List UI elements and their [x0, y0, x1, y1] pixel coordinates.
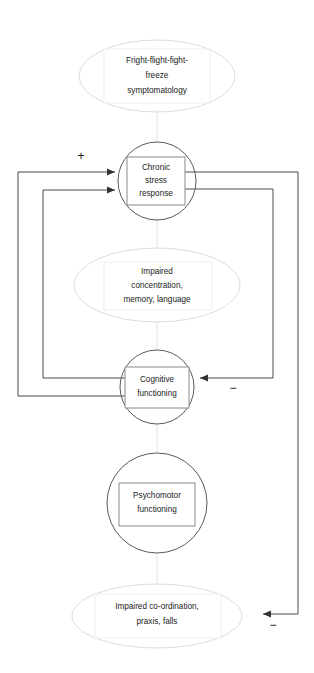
arrowhead-stress-input-outer	[107, 169, 115, 176]
node-psychomotor-functioning[interactable]: Psychomotor functioning	[107, 453, 207, 553]
node-label-cognitive-line1: Cognitive	[140, 375, 175, 384]
arrowhead-coordination-input	[263, 611, 271, 618]
node-label-chronic-stress-line1: Chronic	[142, 163, 170, 172]
node-cognitive-functioning[interactable]: Cognitive functioning	[120, 350, 194, 424]
sign-minus-coordination-input: −	[269, 618, 276, 632]
node-label-chronic-stress-line2: stress	[145, 176, 167, 185]
diagram-canvas: Fright-flight-fight- freeze symptomatolo…	[0, 0, 314, 673]
node-label-concentration-line1: Impaired	[141, 267, 173, 276]
node-label-coordination-line1: Impaired co-ordination,	[115, 602, 199, 611]
node-chronic-stress-response[interactable]: Chronic stress response	[118, 142, 196, 220]
label-box-cognitive	[125, 367, 189, 408]
node-label-symptomatology-line1: Fright-flight-fight-	[126, 56, 188, 65]
flow-diagram: Fright-flight-fight- freeze symptomatolo…	[0, 0, 314, 673]
node-label-coordination-line2: praxis, falls	[137, 617, 178, 626]
sign-minus-cognitive-input: −	[229, 381, 236, 395]
node-label-concentration-line2: concentration,	[131, 281, 182, 290]
label-box-coordination	[95, 594, 221, 638]
node-label-concentration-line3: memory, language	[123, 295, 191, 304]
node-impaired-coordination[interactable]: Impaired co-ordination, praxis, falls	[72, 584, 242, 648]
node-impaired-concentration[interactable]: Impaired concentration, memory, language	[74, 248, 240, 322]
node-label-cognitive-line2: functioning	[137, 389, 177, 398]
sign-plus-stress-input: +	[77, 149, 84, 163]
arrowhead-cognitive-input	[200, 375, 208, 382]
node-label-chronic-stress-line3: response	[139, 189, 173, 198]
arrowhead-stress-input-inner	[107, 187, 115, 194]
node-label-symptomatology-line2: freeze	[146, 71, 169, 80]
link-stress-to-coordination	[178, 172, 298, 614]
node-label-psychomotor-line2: functioning	[137, 505, 177, 514]
node-label-psychomotor-line1: Psychomotor	[133, 491, 181, 500]
node-fright-flight-fight-freeze[interactable]: Fright-flight-fight- freeze symptomatolo…	[79, 40, 235, 112]
node-label-symptomatology-line3: symptomatology	[127, 86, 188, 95]
